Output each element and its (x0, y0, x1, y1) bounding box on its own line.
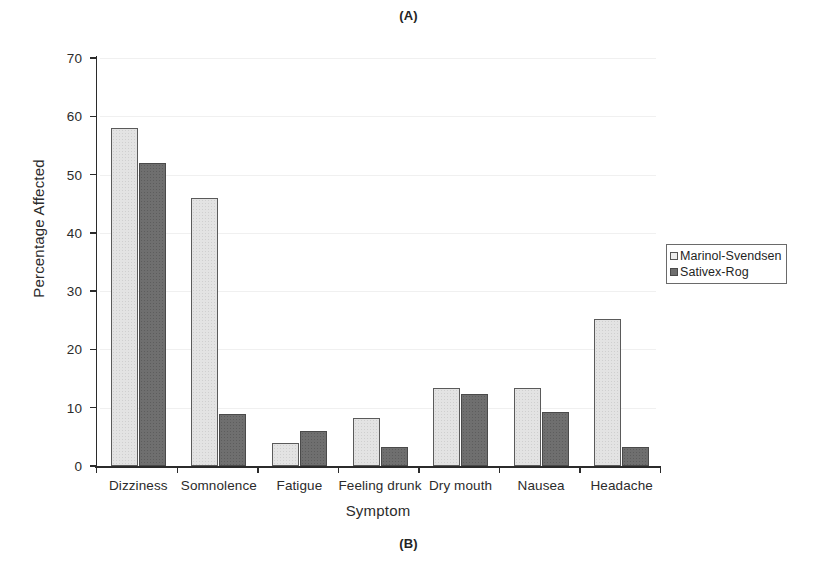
bar-group (111, 58, 166, 466)
x-axis-category-label: Fatigue (277, 478, 323, 493)
bar-0-0 (111, 128, 138, 466)
bar-1-1 (219, 414, 246, 466)
bar-0-2 (272, 443, 299, 466)
x-axis-category-label: Somnolence (181, 478, 257, 493)
x-axis-tick (257, 467, 258, 473)
legend-item-1: Sativex-Rog (670, 264, 782, 280)
bar-0-6 (594, 319, 621, 466)
x-axis-category-label: Dry mouth (429, 478, 492, 493)
bar-0-4 (433, 388, 460, 466)
bar-0-5 (514, 388, 541, 466)
x-axis-line (95, 466, 661, 468)
y-axis-tick-label: 10 (22, 400, 82, 415)
bar-1-2 (300, 431, 327, 466)
x-axis-tick (338, 467, 339, 473)
bar-1-3 (381, 447, 408, 466)
x-axis-category-label: Feeling drunk (338, 478, 421, 493)
panel-label-b: (B) (0, 536, 817, 551)
y-axis-tick-label: 20 (22, 342, 82, 357)
dark-gray-square-icon (670, 268, 678, 276)
chart-legend: Marinol-SvendsenSativex-Rog (666, 244, 787, 284)
legend-item-label: Marinol-Svendsen (680, 249, 782, 263)
y-axis-tick-label: 50 (22, 167, 82, 182)
y-axis-tick-label: 30 (22, 284, 82, 299)
y-axis-tick-label: 70 (22, 51, 82, 66)
legend-item-label: Sativex-Rog (680, 265, 749, 279)
bar-1-5 (542, 412, 569, 466)
bar-1-4 (461, 394, 488, 466)
bar-group (433, 58, 488, 466)
bar-group (191, 58, 246, 466)
bar-1-0 (139, 163, 166, 466)
x-axis-tick (660, 467, 661, 473)
plot-area (96, 58, 660, 466)
x-axis-tick (96, 467, 97, 473)
bar-0-3 (353, 418, 380, 466)
legend-item-0: Marinol-Svendsen (670, 248, 782, 264)
bar-group (272, 58, 327, 466)
x-axis-tick (177, 467, 178, 473)
bar-0-1 (191, 198, 218, 466)
bar-group (514, 58, 569, 466)
bar-group (353, 58, 408, 466)
light-gray-square-icon (670, 252, 678, 260)
bar-group (594, 58, 649, 466)
x-axis-category-label: Nausea (518, 478, 565, 493)
panel-label-a: (A) (0, 8, 817, 23)
y-axis-tick-label: 40 (22, 225, 82, 240)
y-axis-tick-label: 60 (22, 109, 82, 124)
x-axis-tick (579, 467, 580, 473)
x-axis-title: Symptom (96, 502, 660, 519)
bar-1-6 (622, 447, 649, 466)
x-axis-category-label: Headache (591, 478, 653, 493)
bar-chart-figure: Percentage Affected 010203040506070 Dizz… (0, 30, 817, 530)
x-axis-category-label: Dizziness (109, 478, 168, 493)
x-axis-tick (418, 467, 419, 473)
x-axis-tick (499, 467, 500, 473)
y-axis-tick-label: 0 (22, 459, 82, 474)
